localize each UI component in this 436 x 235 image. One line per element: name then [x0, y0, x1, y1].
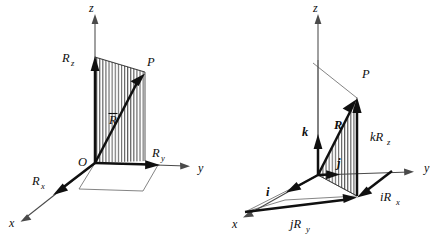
left-R-label-group: R	[108, 113, 118, 127]
left-Rx-subscript: x	[40, 181, 45, 191]
figure-root: z y x O P R R z R y R x	[0, 0, 436, 235]
right-i-label: i	[266, 185, 270, 199]
left-point-P-label: P	[146, 55, 155, 69]
left-Ry-label-group: R y	[151, 146, 165, 163]
right-i-unit-vector	[286, 175, 318, 193]
right-R-label: R	[333, 118, 342, 132]
left-x-axis-label: x	[8, 216, 15, 230]
right-iRx-label: iR	[380, 190, 391, 204]
right-jRy-label: jR	[288, 217, 301, 231]
left-Rz-label: R	[61, 51, 70, 65]
right-kRz-label-group: kR z	[370, 130, 391, 147]
left-y-axis-label: y	[197, 161, 204, 175]
right-y-axis-label: y	[423, 161, 430, 175]
left-z-axis-label: z	[88, 1, 94, 15]
right-kRz-label: kR	[370, 130, 384, 144]
left-Rz-label-group: R z	[61, 51, 75, 68]
right-shaded-triangle	[318, 99, 357, 196]
left-Ry-label: R	[151, 146, 160, 160]
left-origin-label: O	[78, 155, 87, 169]
right-x-axis-label: x	[231, 217, 238, 231]
right-iRx-subscript: x	[395, 197, 400, 207]
left-Rx-vector	[53, 163, 95, 195]
right-point-P-label: P	[361, 67, 370, 81]
right-z-axis-label: z	[312, 1, 318, 15]
right-diagram: z y x P R kR z iR x jR y i j k	[231, 1, 430, 234]
left-Rx-label-group: R x	[31, 174, 45, 191]
right-jRy-subscript: y	[305, 224, 310, 234]
left-Rz-subscript: z	[70, 58, 75, 68]
vector-diagram-canvas: z y x O P R R z R y R x	[0, 0, 436, 235]
left-Rx-label: R	[31, 174, 40, 188]
right-jRy-label-group: jR y	[288, 217, 310, 234]
left-diagram: z y x O P R R z R y R x	[8, 1, 204, 230]
left-Ry-subscript: y	[160, 153, 165, 163]
right-k-label: k	[302, 125, 309, 139]
right-iRx-label-group: iR x	[380, 190, 400, 207]
left-R-label: R	[108, 113, 117, 127]
right-kRz-subscript: z	[386, 137, 391, 147]
